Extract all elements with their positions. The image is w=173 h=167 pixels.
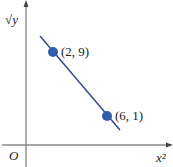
chart: (2, 9) (6, 1) √y O x² <box>0 0 173 167</box>
point2-label: (6, 1) <box>115 108 143 123</box>
y-axis-label: √y <box>5 12 18 27</box>
point1-label: (2, 9) <box>61 44 89 59</box>
data-point-1 <box>48 47 58 57</box>
origin-label: O <box>9 148 19 163</box>
chart-svg: (2, 9) (6, 1) √y O x² <box>0 0 173 167</box>
x-axis-arrow-icon <box>166 143 173 148</box>
x-axis-label: x² <box>155 150 167 165</box>
y-axis-arrow-icon <box>24 0 29 7</box>
data-point-2 <box>102 111 112 121</box>
